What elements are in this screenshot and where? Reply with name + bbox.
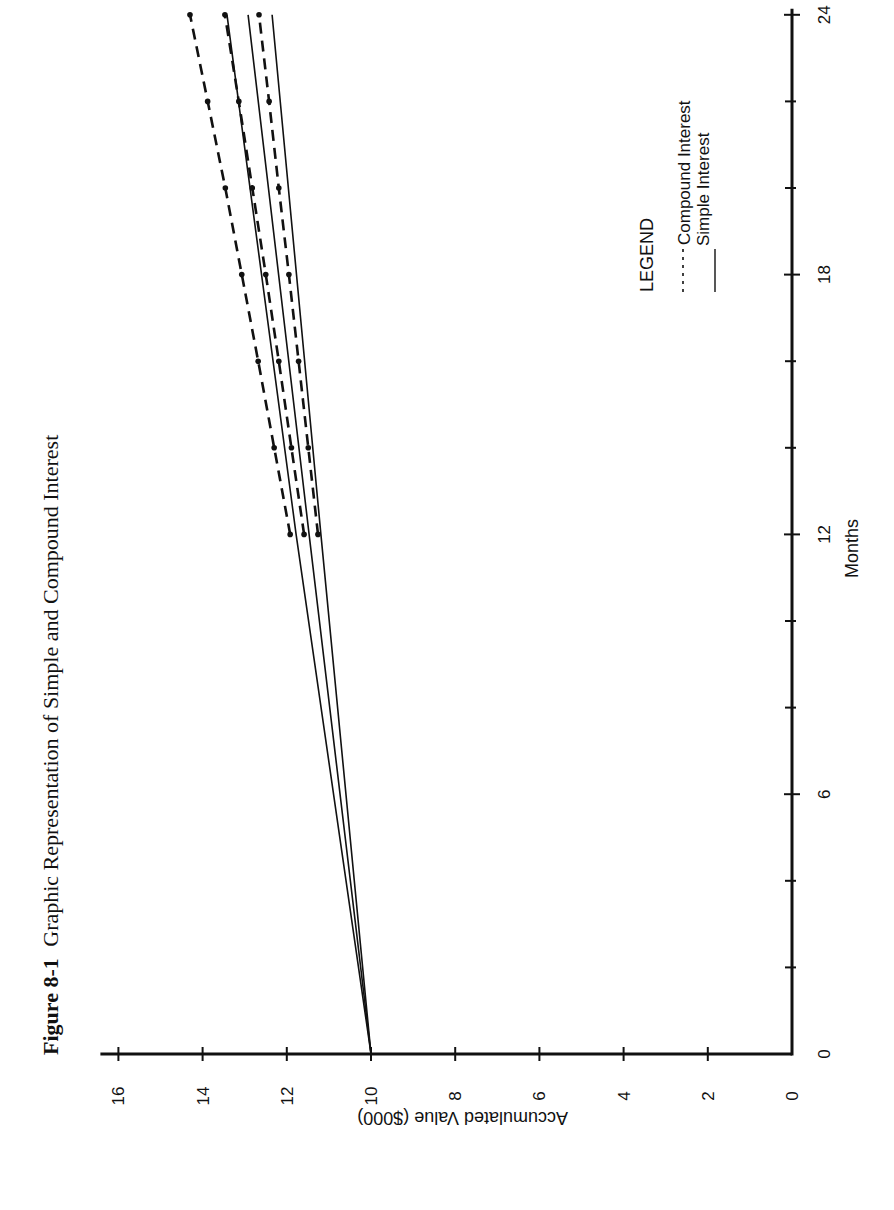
data-point-marker [249,185,255,191]
month-tick-label: 12 [815,525,834,544]
data-point-marker [236,99,242,105]
data-point-marker [255,358,261,364]
data-point-marker [205,99,211,105]
legend: LEGEND Compound Interest Simple Interest [637,100,715,292]
month-tick-label: 6 [815,789,834,798]
data-point-marker [287,532,293,538]
legend-simple-label: Simple Interest [694,132,713,246]
data-point-marker [276,185,282,191]
month-tick-label: 24 [815,5,834,24]
value-tick-label: 0 [783,1091,802,1100]
data-point-marker [289,445,295,451]
value-tick-label: 4 [615,1091,634,1100]
figure-title-text: Graphic Representation of Simple and Com… [38,435,63,947]
value-tick-label: 8 [446,1091,465,1100]
data-point-marker [239,272,245,278]
legend-compound-label: Compound Interest [675,100,694,245]
figure-title: Figure 8-1 Graphic Representation of Sim… [38,435,63,1055]
x-axis-label: Months [842,519,862,578]
data-point-marker [223,185,229,191]
month-tick-label: 18 [815,265,834,284]
axes: 024681012141606121824 [100,5,834,1105]
value-tick-label: 14 [194,1087,213,1106]
month-tick-label: 0 [815,1049,834,1058]
value-tick-label: 6 [530,1091,549,1100]
value-tick-label: 16 [109,1087,128,1106]
data-point-marker [187,12,193,18]
simple-interest-line [272,15,371,1054]
value-tick-label: 2 [699,1091,718,1100]
data-point-marker [305,445,311,451]
figure-number: Figure 8-1 [38,958,63,1055]
data-point-marker [256,12,262,18]
data-point-marker [276,358,282,364]
data-point-marker [271,445,277,451]
data-point-marker [266,99,272,105]
simple-interest-line [248,15,371,1054]
series-group [187,12,371,1054]
y-axis-label: Accumulated Value ($000) [357,1108,568,1128]
data-point-marker [286,272,292,278]
chart: Figure 8-1 Graphic Representation of Sim… [0,0,894,1210]
data-point-marker [296,358,302,364]
legend-title: LEGEND [637,218,657,292]
value-tick-label: 12 [278,1087,297,1106]
value-tick-label: 10 [362,1087,381,1106]
data-point-marker [301,532,307,538]
data-point-marker [315,532,321,538]
data-point-marker [263,272,269,278]
data-point-marker [222,12,228,18]
